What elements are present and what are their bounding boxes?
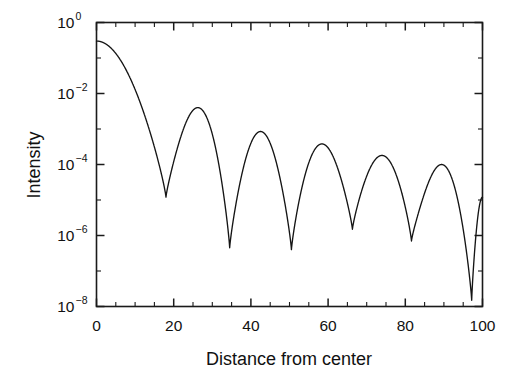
x-tick-label: 80: [397, 317, 415, 334]
y-tick-label-exponent: 0: [76, 10, 82, 22]
y-tick-label: 100: [57, 10, 81, 31]
y-tick-label: 10−4: [57, 152, 87, 173]
y-axis-title: Intensity: [24, 131, 44, 198]
y-tick-label-base: 10: [57, 156, 75, 173]
y-tick-label-exponent: −6: [76, 223, 88, 235]
y-tick-label: 10−8: [57, 294, 87, 315]
x-tick-label: 0: [92, 317, 101, 334]
y-tick-label-base: 10: [57, 14, 75, 31]
x-tick-label: 60: [319, 317, 337, 334]
y-tick-label-base: 10: [57, 227, 75, 244]
plot-frame: [97, 23, 483, 307]
y-tick-label-exponent: −4: [76, 152, 88, 164]
x-axis-minor-ticks: [116, 23, 463, 307]
x-axis-tick-labels: 020406080100: [92, 317, 496, 334]
y-tick-label: 10−6: [57, 223, 87, 244]
y-tick-label-exponent: −2: [76, 81, 88, 93]
y-tick-label-base: 10: [57, 85, 75, 102]
intensity-curve: [97, 41, 483, 300]
x-axis-title: Distance from center: [206, 349, 372, 369]
y-tick-label-base: 10: [57, 298, 75, 315]
diffraction-intensity-chart: 020406080100 10010−210−410−610−8 Distanc…: [0, 0, 518, 377]
y-tick-label: 10−2: [57, 81, 87, 102]
y-tick-label-exponent: −8: [76, 294, 88, 306]
x-tick-label: 20: [165, 317, 183, 334]
y-axis-tick-labels: 10010−210−410−610−8: [57, 10, 87, 315]
x-axis-major-ticks: [97, 23, 483, 307]
y-axis-major-ticks: [97, 23, 483, 307]
y-axis-minor-ticks: [97, 58, 483, 271]
figure-canvas: 020406080100 10010−210−410−610−8 Distanc…: [0, 0, 518, 377]
x-tick-label: 100: [470, 317, 496, 334]
x-tick-label: 40: [242, 317, 260, 334]
